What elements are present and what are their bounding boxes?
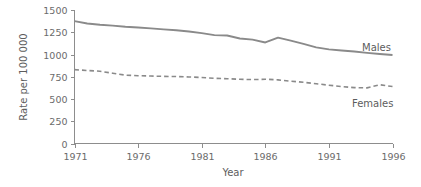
y-axis-ticks [71,11,75,145]
y-tick-label: 0 [61,139,67,150]
y-tick-label: 1250 [43,27,67,38]
series-label-males: Males [362,42,391,53]
y-tick-label: 500 [49,94,67,105]
x-tick-label: 1996 [381,151,405,162]
line-chart: 0250500750100012501500 19711976198119861… [0,0,421,187]
x-axis-ticks [76,144,394,148]
y-tick-label: 1000 [43,50,67,61]
x-tick-label: 1986 [253,151,277,162]
series-label-females: Females [352,98,393,109]
x-axis-tick-labels: 197119761981198619911996 [63,151,405,162]
series-line-males [75,21,393,55]
y-axis-tick-labels: 0250500750100012501500 [43,5,67,150]
y-axis-title: Rate per 100 000 [18,33,29,120]
y-tick-label: 250 [49,116,67,127]
y-tick-label: 750 [49,72,67,83]
x-tick-label: 1991 [317,151,341,162]
x-axis-title: Year [221,167,244,178]
series-group [75,21,393,88]
x-tick-label: 1976 [126,151,150,162]
series-line-females [75,70,393,88]
x-tick-label: 1981 [190,151,214,162]
chart-canvas: 0250500750100012501500 19711976198119861… [0,0,421,187]
x-tick-label: 1971 [63,151,87,162]
y-tick-label: 1500 [43,5,67,16]
